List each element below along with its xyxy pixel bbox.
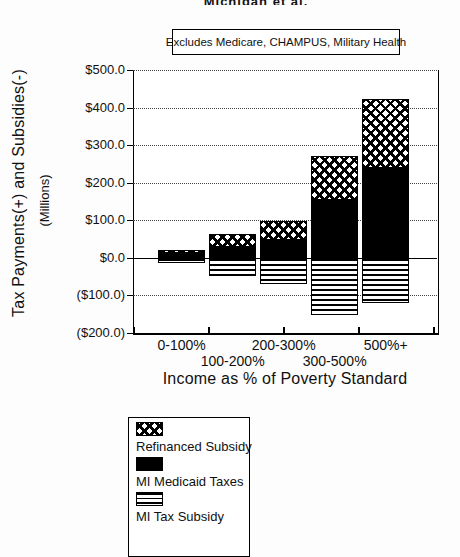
x-axis-title: Income as % of Poverty Standard: [123, 370, 447, 388]
legend-item: MI Medicaid Taxes: [136, 457, 249, 489]
y-axis-tick: [127, 220, 133, 221]
bar-segment-mi-tax-subsidy: [311, 258, 358, 315]
refinanced-subsidy-swatch: [136, 422, 163, 436]
bar-segment-mi-medicaid-taxes: [362, 168, 409, 258]
bar-segment-mi-tax-subsidy: [158, 258, 205, 264]
y-axis-tick: [127, 183, 133, 184]
y-tick-label: $400.0: [53, 100, 125, 116]
bar-segment-mi-medicaid-taxes: [260, 240, 307, 258]
x-tick-label: 200-300%: [239, 337, 329, 353]
y-axis-tick: [127, 333, 133, 334]
x-axis-tick: [358, 327, 360, 333]
y-tick-label: $300.0: [53, 137, 125, 153]
y-tick-label: $200.0: [53, 175, 125, 191]
bar-segment-refinanced-subsidy: [362, 99, 409, 168]
x-axis-tick: [433, 327, 435, 333]
x-tick-label: 100-200%: [188, 353, 278, 369]
x-tick-label: 300-500%: [290, 353, 380, 369]
x-tick-label: 500%+: [341, 337, 431, 353]
chart: Tax Payments(+) and Subsidies(-) (Millio…: [0, 0, 460, 410]
legend-label: MI Tax Subsidy: [136, 509, 249, 524]
legend-item: MI Tax Subsidy: [136, 492, 249, 524]
bar-segment-refinanced-subsidy: [311, 156, 358, 200]
y-tick-label: ($100.0): [53, 287, 125, 303]
mi-tax-subsidy-swatch: [136, 492, 163, 506]
x-axis-tick: [133, 327, 135, 333]
legend-label: MI Medicaid Taxes: [136, 474, 249, 489]
y-axis-tick: [127, 295, 133, 296]
gridline: [133, 70, 437, 71]
bar-segment-mi-tax-subsidy: [209, 258, 256, 276]
bar-segment-refinanced-subsidy: [260, 221, 307, 239]
bar-segment-mi-tax-subsidy: [362, 258, 409, 303]
bar-segment-mi-medicaid-taxes: [311, 200, 358, 258]
legend-item: Refinanced Subsidy: [136, 422, 249, 454]
bar-segment-mi-tax-subsidy: [260, 258, 307, 284]
y-tick-label: $100.0: [53, 212, 125, 228]
y-axis-tick: [127, 145, 133, 146]
y-axis-tick: [127, 70, 133, 71]
y-axis-tick: [127, 108, 133, 109]
bar-segment-refinanced-subsidy: [209, 234, 256, 246]
x-tick-label: 0-100%: [137, 337, 227, 353]
bar-segment-mi-medicaid-taxes: [209, 247, 256, 258]
legend: Refinanced Subsidy MI Medicaid Taxes MI …: [128, 417, 250, 557]
y-tick-label: $0.0: [53, 250, 125, 266]
y-tick-label: $500.0: [53, 62, 125, 78]
y-axis-tick: [127, 258, 133, 259]
y-tick-label: ($200.0): [53, 325, 125, 341]
x-axis-tick: [208, 327, 210, 333]
legend-label: Refinanced Subsidy: [136, 439, 249, 454]
x-axis-tick: [283, 327, 285, 333]
mi-medicaid-taxes-swatch: [136, 457, 163, 471]
